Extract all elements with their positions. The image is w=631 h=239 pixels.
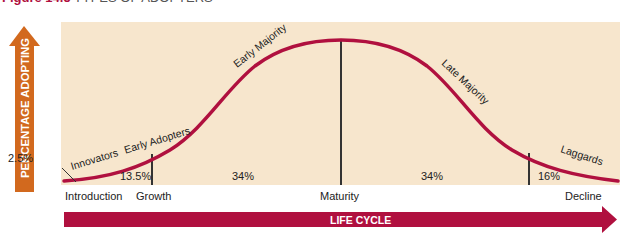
pct-laggards: 16% xyxy=(538,170,560,182)
stage-decline: Decline xyxy=(565,190,602,202)
pct-early-majority: 34% xyxy=(232,170,254,182)
pct-innovators: 2.5% xyxy=(8,152,33,164)
pct-late-majority: 34% xyxy=(421,170,443,182)
percentage-adopting-arrow: PERCENTAGE ADOPTING xyxy=(9,26,40,192)
x-axis-label: LIFE CYCLE xyxy=(330,214,391,226)
stage-maturity: Maturity xyxy=(320,190,360,202)
adopter-diagram: PERCENTAGE ADOPTING 2.5% Innovators Earl… xyxy=(0,0,631,239)
stage-introduction: Introduction xyxy=(65,190,122,202)
stage-growth: Growth xyxy=(136,190,171,202)
life-cycle-arrow: LIFE CYCLE xyxy=(64,206,617,233)
pct-early-adopters: 13.5% xyxy=(120,170,151,182)
